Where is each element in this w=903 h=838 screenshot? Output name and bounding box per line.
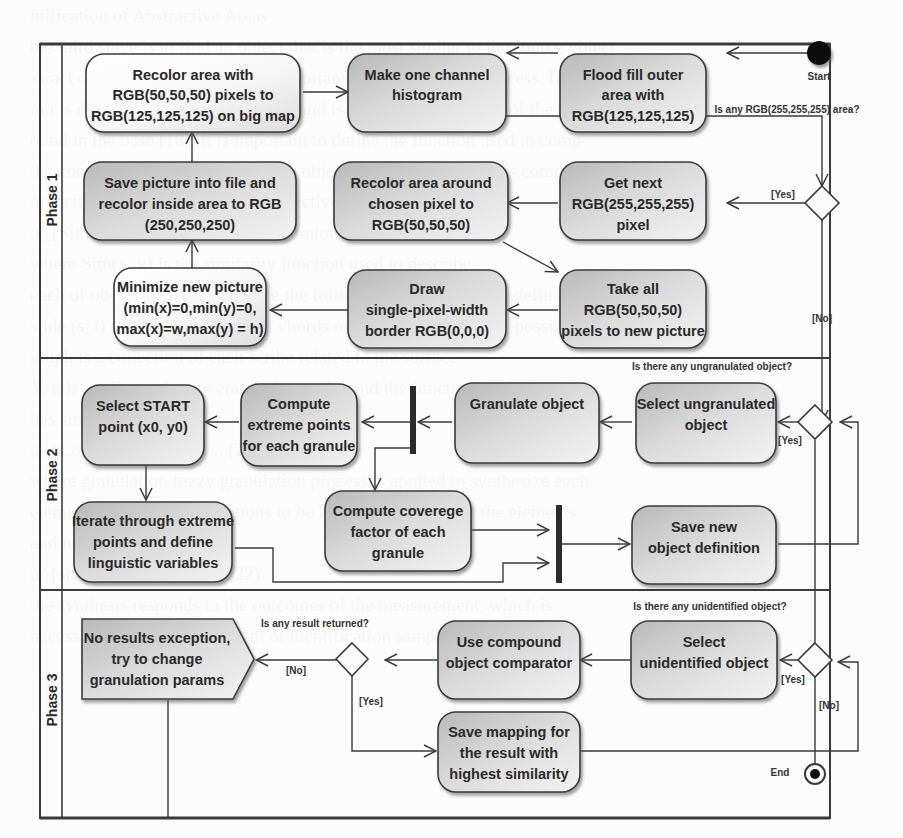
svg-text:Compute coverege: Compute coverege (333, 503, 464, 519)
node-histogram: Make one channel histogram (348, 54, 506, 132)
svg-text:try to change: try to change (111, 651, 202, 667)
svg-text:granule: granule (372, 545, 424, 561)
node-select-ungranulated: Select ungranulated object (636, 383, 776, 463)
svg-text:area with: area with (602, 87, 665, 103)
svg-text:Draw: Draw (409, 281, 445, 297)
svg-text:Granulate object: Granulate object (470, 396, 585, 412)
start-node: Start (807, 41, 831, 82)
node-iterate: Iterate through extreme points and defin… (72, 502, 234, 582)
node-select-unidentified: Select unidentified object (631, 621, 777, 699)
svg-text:unidentified object: unidentified object (640, 655, 769, 671)
svg-text:Select ungranulated: Select ungranulated (637, 396, 776, 412)
lane-label-phase-3: Phase 3 (44, 673, 60, 726)
svg-text:linguistic variables: linguistic variables (88, 555, 219, 571)
svg-text:histogram: histogram (392, 87, 462, 103)
label-yes-unidentified: [Yes] (781, 674, 805, 685)
svg-text:RGB(50,50,50) pixels to: RGB(50,50,50) pixels to (112, 87, 273, 103)
svg-text:Select: Select (683, 634, 726, 650)
svg-text:pixels to new picture: pixels to new picture (561, 323, 704, 339)
svg-text:object definition: object definition (648, 540, 760, 556)
svg-text:single-pixel-width: single-pixel-width (366, 302, 488, 318)
svg-text:extreme points: extreme points (247, 417, 350, 433)
node-draw-border: Draw single-pixel-width border RGB(0,0,0… (348, 270, 506, 348)
svg-text:Iterate through extreme: Iterate through extreme (72, 513, 234, 529)
svg-text:Take all: Take all (607, 281, 659, 297)
svg-text:the result with: the result with (460, 745, 558, 761)
node-select-start: Select START point (x0, y0) (82, 385, 204, 465)
svg-text:Minimize new picture: Minimize new picture (117, 279, 263, 295)
label-no-result: [No] (286, 665, 306, 676)
svg-text:highest similarity: highest similarity (449, 766, 568, 782)
svg-text:border RGB(0,0,0): border RGB(0,0,0) (365, 323, 489, 339)
svg-text:point (x0, y0): point (x0, y0) (98, 419, 188, 435)
svg-text:Flood fill outer: Flood fill outer (583, 67, 684, 83)
svg-text:Compute: Compute (268, 396, 331, 412)
svg-text:RGB(50,50,50): RGB(50,50,50) (372, 217, 470, 233)
node-save-definition: Save new object definition (632, 506, 776, 584)
node-save-mapping: Save mapping for the result with highest… (438, 712, 580, 792)
svg-text:Start: Start (808, 71, 831, 82)
svg-text:points and define: points and define (93, 534, 213, 550)
node-get-next: Get next RGB(255,255,255) pixel (560, 162, 706, 240)
svg-text:RGB(125,125,125) on big map: RGB(125,125,125) on big map (91, 108, 295, 124)
svg-text:RGB(50,50,50): RGB(50,50,50) (584, 302, 682, 318)
svg-text:Get next: Get next (604, 175, 662, 191)
svg-text:chosen pixel to: chosen pixel to (368, 196, 474, 212)
svg-text:(min(x)=0,min(y)=0,: (min(x)=0,min(y)=0, (124, 300, 257, 316)
node-compute-extreme: Compute extreme points for each granule (241, 384, 357, 466)
svg-text:(250,250,250): (250,250,250) (145, 217, 235, 233)
node-granulate: Granulate object (455, 383, 599, 463)
node-save-picture: Save picture into file and recolor insid… (84, 162, 296, 240)
svg-text:factor of each: factor of each (350, 524, 445, 540)
node-recolor-around: Recolor area around chosen pixel to RGB(… (334, 162, 508, 240)
decision-question-white-area: Is any RGB(255,255,255) area? (714, 104, 859, 115)
label-yes-white-area: [Yes] (771, 189, 795, 200)
svg-text:Use compound: Use compound (457, 634, 562, 650)
decision-question-ungranulated: Is there any ungranulated object? (632, 361, 792, 372)
node-recolor-big-map: Recolor area with RGB(50,50,50) pixels t… (86, 54, 300, 132)
node-take-all: Take all RGB(50,50,50) pixels to new pic… (560, 270, 706, 348)
decision-question-unidentified: Is there any unidentified object? (633, 601, 786, 612)
label-no-white-area: [No] (812, 313, 832, 324)
label-yes-ungranulated: [Yes] (778, 435, 802, 446)
svg-text:object comparator: object comparator (446, 655, 573, 671)
node-compound-comparator: Use compound object comparator (438, 621, 580, 699)
svg-text:End: End (771, 767, 790, 778)
join-bar (556, 505, 562, 583)
svg-text:granulation params: granulation params (90, 672, 225, 688)
svg-text:Make one channel: Make one channel (365, 67, 490, 83)
node-no-results-exception: No results exception, try to change gran… (82, 619, 254, 699)
lane-label-phase-1: Phase 1 (44, 173, 60, 226)
svg-text:pixel: pixel (616, 217, 649, 233)
svg-text:for each granule: for each granule (243, 438, 356, 454)
activity-diagram: Phase 1 Phase 2 Phase 3 (0, 0, 903, 838)
svg-text:RGB(125,125,125): RGB(125,125,125) (572, 108, 695, 124)
svg-text:Recolor area around: Recolor area around (350, 175, 491, 191)
decision-question-result: Is any result returned? (261, 618, 369, 629)
lane-label-phase-2: Phase 2 (44, 448, 60, 501)
fork-bar (410, 386, 416, 454)
label-yes-result: [Yes] (359, 696, 383, 707)
svg-text:No results exception,: No results exception, (84, 630, 231, 646)
svg-text:Save new: Save new (671, 519, 738, 535)
svg-text:object: object (685, 417, 728, 433)
label-no-unidentified: [No] (819, 700, 839, 711)
svg-text:RGB(255,255,255): RGB(255,255,255) (572, 196, 695, 212)
svg-text:recolor inside area to RGB: recolor inside area to RGB (99, 196, 282, 212)
svg-text:Save picture into file and: Save picture into file and (104, 175, 276, 191)
node-flood-fill: Flood fill outer area with RGB(125,125,1… (560, 54, 706, 132)
svg-text:Select START: Select START (96, 398, 190, 414)
svg-text:Save mapping for: Save mapping for (448, 724, 570, 740)
node-coverage: Compute coverege factor of each granule (325, 491, 471, 571)
node-minimize: Minimize new picture (min(x)=0,min(y)=0,… (114, 268, 266, 346)
svg-text:max(x)=w,max(y) = h): max(x)=w,max(y) = h) (117, 321, 264, 337)
svg-text:Recolor area with: Recolor area with (133, 67, 254, 83)
